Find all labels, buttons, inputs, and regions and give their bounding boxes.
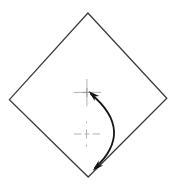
pivot-crosshair [74, 79, 102, 106]
rotation-diagram-canvas [0, 0, 176, 185]
center-mark-crosshair [74, 122, 100, 147]
square-outline [9, 13, 166, 177]
rotation-arrow-arc [91, 94, 114, 168]
rotation-diagram [0, 0, 176, 185]
rotation-arrow [89, 91, 114, 170]
